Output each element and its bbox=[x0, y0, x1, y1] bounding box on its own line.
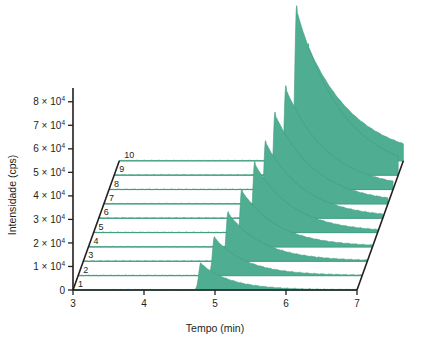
depth-label-8: 8 bbox=[114, 179, 119, 189]
y-tick-label-60000: 6 × 104 bbox=[33, 142, 65, 154]
depth-label-2: 2 bbox=[83, 265, 88, 275]
y-axis-title: Intensidade (cps) bbox=[6, 155, 18, 236]
x-tick-label-4: 4 bbox=[141, 298, 147, 309]
depth-label-5: 5 bbox=[99, 222, 104, 232]
depth-label-9: 9 bbox=[119, 164, 124, 174]
depth-label-1: 1 bbox=[78, 279, 83, 289]
y-tick-label-50000: 5 × 104 bbox=[33, 166, 65, 178]
x-tick-label-7: 7 bbox=[354, 298, 360, 309]
x-tick-label-6: 6 bbox=[283, 298, 289, 309]
x-tick-label-5: 5 bbox=[212, 298, 218, 309]
y-tick-label-20000: 2 × 104 bbox=[33, 237, 65, 249]
waterfall-chromatogram-chart: 34567 01 × 1042 × 1043 × 1044 × 1045 × 1… bbox=[0, 0, 431, 340]
y-tick-label-40000: 4 × 104 bbox=[33, 189, 65, 201]
depth-label-7: 7 bbox=[109, 193, 114, 203]
x-axis-title: Tempo (min) bbox=[186, 322, 244, 334]
depth-label-3: 3 bbox=[88, 250, 93, 260]
trace-9 bbox=[114, 6, 398, 176]
depth-label-4: 4 bbox=[93, 236, 98, 246]
x-axis-ticks: 34567 bbox=[70, 290, 360, 309]
y-tick-label-10000: 1 × 104 bbox=[33, 260, 65, 272]
y-tick-label-30000: 3 × 104 bbox=[33, 213, 65, 225]
y-tick-label-80000: 8 × 104 bbox=[33, 95, 65, 107]
chart-container: 34567 01 × 1042 × 1043 × 1044 × 1045 × 1… bbox=[0, 0, 431, 340]
x-tick-label-3: 3 bbox=[70, 298, 76, 309]
depth-label-6: 6 bbox=[104, 207, 109, 217]
y-tick-label-0: 0 bbox=[59, 285, 65, 296]
y-tick-label-70000: 7 × 104 bbox=[33, 119, 65, 131]
y-axis-ticks: 01 × 1042 × 1043 × 1044 × 1045 × 1046 × … bbox=[33, 95, 73, 295]
depth-label-10: 10 bbox=[124, 150, 134, 160]
